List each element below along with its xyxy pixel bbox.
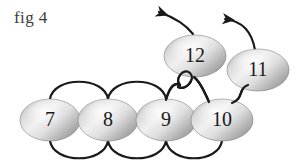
node-12-label: 12 (185, 44, 205, 66)
node-9-label: 9 (161, 108, 171, 130)
edge-9-10-bottom (166, 141, 222, 158)
node-11-label: 11 (248, 58, 267, 80)
arrow-from-11-up-left (225, 19, 255, 50)
node-7[interactable]: 7 (20, 99, 80, 141)
node-10-label: 10 (212, 108, 232, 130)
node-12[interactable]: 12 (164, 35, 226, 77)
node-11[interactable]: 11 (227, 49, 289, 91)
edge-8-9-top (108, 82, 166, 99)
node-10[interactable]: 10 (191, 99, 253, 141)
edge-7-8-top (50, 82, 108, 99)
edge-10-12-overlay (194, 77, 209, 102)
arrow-from-12-up-left (159, 12, 193, 34)
node-layer: 7 8 9 10 12 (20, 35, 289, 141)
node-8[interactable]: 8 (78, 99, 138, 141)
node-8-label: 8 (103, 108, 113, 130)
graph-diagram: 7 8 9 10 12 (0, 0, 297, 167)
edge-8-9-bottom (108, 141, 166, 158)
figure-container: fig 4 (0, 0, 297, 167)
node-7-label: 7 (45, 108, 55, 130)
edge-7-8-bottom (50, 141, 108, 158)
node-9[interactable]: 9 (136, 99, 196, 141)
